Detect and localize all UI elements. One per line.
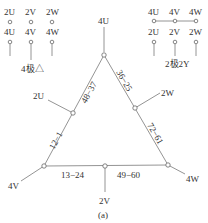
label-4u: 4U [4,27,16,37]
caption-2pole: 2极2Y [165,58,190,69]
edge-label-right-lower: 72−61 [145,121,165,146]
label-4v: 4V [25,27,37,37]
terminal-2w [50,20,54,24]
node-4w [166,163,170,167]
mid-label-2w: 2W [161,88,175,98]
node-4v [42,164,46,168]
edge-label-bottom-left: 13−24 [61,170,85,180]
edge-label-bottom-right: 49−60 [117,170,141,180]
stub-2w [135,93,160,108]
terminal-2u-r [152,40,156,44]
edge-label-top-right: 36−25 [114,68,134,93]
terminal-4w-r [194,19,198,23]
winding-diagram: 2U 2V 2W 4U 4V 4W 4极△ 4U 4V 4W 2U 2V 2W … [0,0,208,223]
vertex-label-4w: 4W [186,174,200,184]
label-2w-r: 2W [189,27,203,37]
terminal-4u [8,40,12,44]
legend-4pole-delta: 2U 2V 2W 4U 4V 4W 4极△ [4,7,60,74]
node-4u [102,53,106,57]
terminal-4v-r [173,19,177,23]
node-2v [103,164,107,168]
label-2u-r: 2U [148,27,160,37]
mid-label-2u: 2U [33,91,45,101]
node-2w [133,106,137,110]
figure-caption: (a) [98,210,108,220]
terminal-4v [29,40,33,44]
delta-triangle: 4U 2U 2W 4V 4W 2V 48−37 36−25 12−1 72−61… [8,16,200,206]
label-2v: 2V [25,7,37,17]
vertex-label-4v: 4V [8,181,20,191]
terminal-4w [50,40,54,44]
vertex-label-4u: 4U [98,16,110,26]
terminal-2w-r [194,40,198,44]
legend-2pole-2y: 4U 4V 4W 2U 2V 2W 2极2Y [148,7,203,69]
stub-4v [21,166,44,181]
caption-4pole: 4极△ [21,63,44,74]
label-2u: 2U [4,7,16,17]
stub-2u [48,100,73,113]
label-2v-r: 2V [169,27,181,37]
edge-label-top-left: 48−37 [79,80,99,105]
label-4w: 4W [46,27,60,37]
terminal-2v [29,20,33,24]
terminal-2u [8,20,12,24]
label-2w: 2W [46,7,60,17]
label-4v-r: 4V [169,7,181,17]
label-4w-r: 4W [189,7,203,17]
terminal-2v-r [173,40,177,44]
label-4u-r: 4U [148,7,160,17]
mid-label-2v: 2V [99,196,111,206]
terminal-4u-r [152,19,156,23]
stub-4w [168,165,185,174]
node-2u [71,111,75,115]
